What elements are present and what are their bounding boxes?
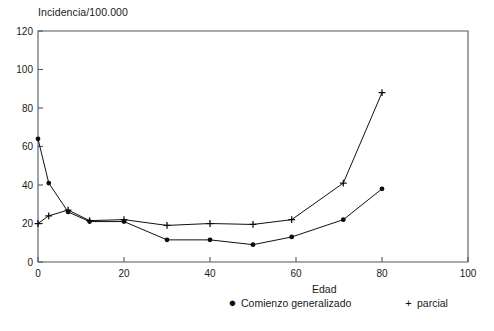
series-comienzo-generalizado xyxy=(36,136,385,247)
data-point-marker-dot xyxy=(341,217,346,222)
y-axis-tick-labels: 0 20 40 60 80 100 120 xyxy=(16,26,33,268)
data-point-marker-plus xyxy=(86,217,93,224)
data-point-marker-dot xyxy=(36,136,41,141)
y-tick-label: 100 xyxy=(16,64,33,75)
legend-item-comienzo-generalizado: ● Comienzo generalizado xyxy=(228,297,351,309)
data-point-marker-dot xyxy=(46,181,51,186)
data-point-marker-dot xyxy=(165,237,170,242)
x-tick-label: 100 xyxy=(460,268,477,279)
data-point-marker-dot xyxy=(208,237,213,242)
line-chart-plot: 0 20 40 60 80 100 120 0 20 40 60 80 100 xyxy=(0,0,494,331)
legend-label-comienzo-generalizado: Comienzo generalizado xyxy=(241,297,351,309)
data-point-marker-plus xyxy=(45,212,52,219)
chart-legend: ● Comienzo generalizado + parcial xyxy=(228,297,478,313)
plus-marker-icon: + xyxy=(404,297,413,309)
x-tick-label: 80 xyxy=(376,268,388,279)
data-point-marker-plus xyxy=(164,222,171,229)
y-tick-label: 80 xyxy=(22,103,34,114)
x-axis-tick-labels: 0 20 40 60 80 100 xyxy=(35,268,477,279)
x-axis-label: Edad xyxy=(312,283,337,295)
data-point-marker-plus xyxy=(340,180,347,187)
y-tick-label: 120 xyxy=(16,26,33,37)
legend-item-parcial: + parcial xyxy=(404,297,448,309)
y-tick-label: 60 xyxy=(22,141,34,152)
data-series-layer xyxy=(35,89,386,247)
x-tick-label: 40 xyxy=(204,268,216,279)
series-line xyxy=(38,93,382,226)
x-axis-ticks xyxy=(38,257,468,262)
data-point-marker-dot xyxy=(380,186,385,191)
data-point-marker-plus xyxy=(35,220,42,227)
y-tick-label: 40 xyxy=(22,180,34,191)
legend-label-parcial: parcial xyxy=(417,297,448,309)
data-point-marker-plus xyxy=(250,221,257,228)
data-point-marker-plus xyxy=(207,220,214,227)
data-point-marker-dot xyxy=(289,235,294,240)
series-parcial xyxy=(35,89,386,229)
figure-container: Incidencia/100.000 0 20 xyxy=(0,0,494,331)
data-point-marker-plus xyxy=(379,89,386,96)
x-tick-label: 60 xyxy=(290,268,302,279)
y-tick-label: 0 xyxy=(27,257,33,268)
x-tick-label: 0 xyxy=(35,268,41,279)
y-axis-ticks xyxy=(38,31,43,262)
data-point-marker-dot xyxy=(251,242,256,247)
x-tick-label: 20 xyxy=(118,268,130,279)
y-tick-label: 20 xyxy=(22,218,34,229)
filled-circle-marker-icon: ● xyxy=(228,297,237,309)
data-point-marker-plus xyxy=(288,216,295,223)
